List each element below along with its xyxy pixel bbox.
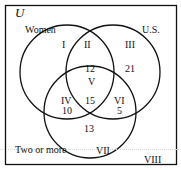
region-numeral-ii: II	[84, 40, 91, 50]
set-label-women: Women	[25, 25, 56, 35]
region-numeral-vii: VII	[96, 146, 110, 156]
region-value-vii: 13	[84, 124, 94, 134]
set-label-us: U.S.	[142, 25, 160, 35]
region-numeral-viii: VIII	[144, 155, 161, 165]
region-value-iv: 10	[62, 106, 72, 116]
set-label-two-or-more: Two or more	[15, 145, 67, 155]
region-numeral-v: V	[88, 77, 95, 87]
region-value-v: 15	[85, 96, 95, 106]
region-numeral-i: I	[62, 40, 65, 50]
region-value-ii: 12	[85, 64, 95, 74]
universe-label: U	[15, 8, 24, 18]
region-numeral-iii: III	[125, 40, 135, 50]
region-value-iii: 21	[125, 64, 135, 74]
region-value-vi: 5	[117, 106, 122, 116]
